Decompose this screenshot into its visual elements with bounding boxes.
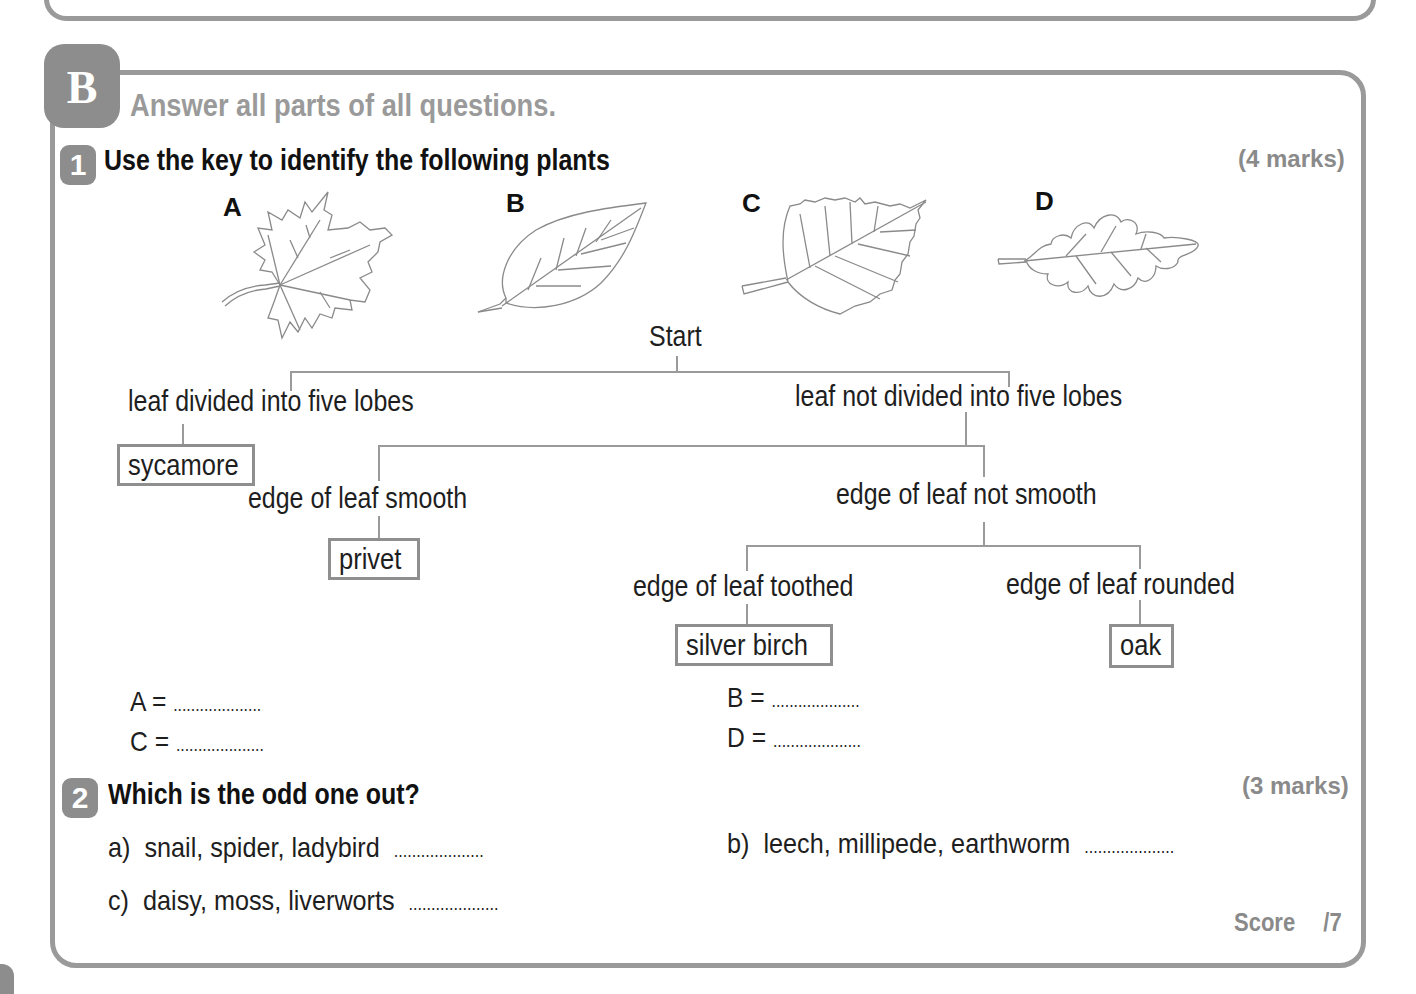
key-connector xyxy=(746,545,748,571)
odd-one-out-c-blank[interactable]: .................... xyxy=(409,894,499,915)
key-connector xyxy=(1139,600,1141,624)
next-section-badge-edge xyxy=(0,964,14,994)
answer-a[interactable]: A = .................... xyxy=(130,686,261,718)
key-smooth: edge of leaf smooth xyxy=(248,482,467,515)
key-connector xyxy=(983,522,985,546)
answer-b[interactable]: B = .................... xyxy=(727,682,860,714)
result-privet: privet xyxy=(328,538,420,580)
question-2-marks: (3 marks) xyxy=(1242,772,1349,800)
key-start: Start xyxy=(649,320,702,353)
odd-one-out-b-blank[interactable]: .................... xyxy=(1084,837,1174,858)
section-instruction: Answer all parts of all questions. xyxy=(130,88,556,124)
key-lobes-no: leaf not divided into five lobes xyxy=(795,380,1122,413)
key-connector xyxy=(965,412,967,446)
question-1-number: 1 xyxy=(60,145,96,185)
score: Score/7 xyxy=(1234,908,1342,937)
key-connector xyxy=(182,424,184,446)
answer-b-blank[interactable]: .................... xyxy=(772,691,860,712)
lobed-oak-leaf-icon xyxy=(996,204,1206,304)
key-connector xyxy=(290,371,1010,373)
key-not-smooth: edge of leaf not smooth xyxy=(836,478,1097,511)
key-connector xyxy=(378,445,380,481)
answer-d-blank[interactable]: .................... xyxy=(773,731,861,752)
question-2-title: Which is the odd one out? xyxy=(108,778,420,811)
section-badge: B xyxy=(44,44,120,128)
odd-one-out-a-blank[interactable]: .................... xyxy=(394,841,484,862)
score-label: Score xyxy=(1234,908,1295,936)
key-connector xyxy=(1139,545,1141,569)
maple-leaf-icon xyxy=(220,190,400,345)
question-1-marks: (4 marks) xyxy=(1238,145,1345,173)
odd-one-out-a[interactable]: a) snail, spider, ladybird .............… xyxy=(108,832,484,864)
key-toothed: edge of leaf toothed xyxy=(633,570,853,603)
result-silver-birch: silver birch xyxy=(675,624,833,666)
key-rounded: edge of leaf rounded xyxy=(1006,568,1235,601)
result-oak: oak xyxy=(1109,624,1174,668)
key-connector xyxy=(676,356,678,372)
key-connector xyxy=(378,445,984,447)
odd-one-out-c[interactable]: c) daisy, moss, liverworts .............… xyxy=(108,885,499,917)
key-connector xyxy=(746,604,748,626)
odd-one-out-b[interactable]: b) leech, millipede, earthworm .........… xyxy=(727,828,1174,860)
key-connector xyxy=(378,516,380,540)
question-1-title: Use the key to identify the following pl… xyxy=(104,144,610,177)
key-connector xyxy=(983,445,985,477)
key-connector xyxy=(746,545,1141,547)
answer-a-blank[interactable]: .................... xyxy=(173,695,261,716)
answer-c[interactable]: C = .................... xyxy=(130,726,264,758)
smooth-leaf-icon xyxy=(476,198,651,318)
previous-section-box xyxy=(44,0,1376,21)
question-2-number: 2 xyxy=(62,778,98,818)
key-lobes-yes: leaf divided into five lobes xyxy=(128,385,414,418)
score-total: /7 xyxy=(1323,908,1341,936)
answer-d[interactable]: D = .................... xyxy=(727,722,861,754)
result-sycamore: sycamore xyxy=(117,444,255,486)
toothed-leaf-icon xyxy=(740,194,930,319)
answer-c-blank[interactable]: .................... xyxy=(176,735,264,756)
